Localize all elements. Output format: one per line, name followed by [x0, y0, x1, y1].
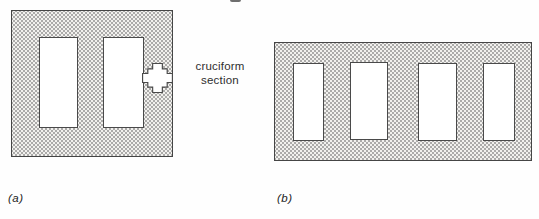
cruciform-label: cruciform section	[183, 60, 257, 87]
opening	[350, 62, 388, 140]
cruciform-label-line2: section	[183, 74, 257, 88]
panel-a-label: (a)	[8, 192, 24, 204]
panel-b-label: (b)	[277, 192, 293, 204]
opening	[103, 37, 144, 128]
cruciform-section-shape	[142, 63, 173, 93]
panel-a: cruciform section (a)	[0, 0, 539, 219]
opening	[293, 63, 324, 141]
plate-a	[11, 10, 173, 157]
opening	[483, 63, 515, 141]
cruciform-label-line1: cruciform	[183, 60, 257, 74]
scan-artifact	[230, 0, 241, 2]
opening	[39, 37, 78, 128]
opening	[418, 63, 457, 141]
figure-canvas: cruciform section (a) (b)	[0, 0, 539, 219]
plate-b	[274, 42, 532, 161]
panel-b: (b)	[0, 0, 539, 219]
